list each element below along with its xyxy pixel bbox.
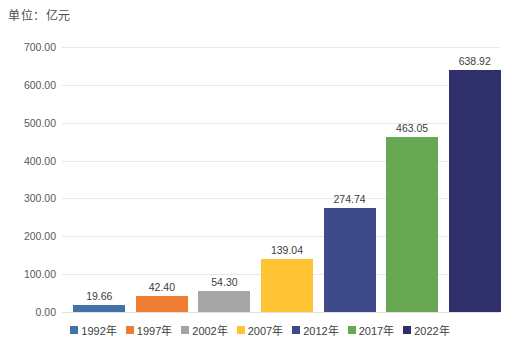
bar[interactable]: 54.30 <box>198 291 250 312</box>
chart-legend: 1992年1997年2002年2007年2012年2017年2022年 <box>0 322 520 338</box>
legend-item[interactable]: 1997年 <box>126 322 172 338</box>
bar[interactable]: 139.04 <box>261 259 313 312</box>
bar[interactable]: 274.74 <box>324 208 376 312</box>
legend-swatch-icon <box>237 326 245 334</box>
legend-swatch-icon <box>348 326 356 334</box>
y-axis-tick-label: 100.00 <box>24 268 56 280</box>
y-axis-tick-label: 300.00 <box>24 192 56 204</box>
chart-title: 单位：亿元 <box>8 6 71 23</box>
bars-layer: 19.6642.4054.30139.04274.74463.05638.92 <box>62 47 500 312</box>
legend-label: 2007年 <box>248 322 283 338</box>
legend-item[interactable]: 2012年 <box>292 322 338 338</box>
legend-swatch-icon <box>403 326 411 334</box>
legend-swatch-icon <box>181 326 189 334</box>
bar-value-label: 274.74 <box>334 193 366 205</box>
y-axis-tick-label: 0.00 <box>36 306 56 318</box>
legend-label: 1992年 <box>81 322 116 338</box>
legend-label: 2017年 <box>359 322 394 338</box>
y-axis-tick-label: 200.00 <box>24 230 56 242</box>
bar-value-label: 463.05 <box>396 122 428 134</box>
legend-label: 2022年 <box>414 322 449 338</box>
legend-item[interactable]: 2002年 <box>181 322 227 338</box>
y-axis: 0.00100.00200.00300.00400.00500.00600.00… <box>0 47 56 312</box>
legend-swatch-icon <box>126 326 134 334</box>
legend-item[interactable]: 1992年 <box>70 322 116 338</box>
legend-swatch-icon <box>70 326 78 334</box>
legend-label: 1997年 <box>137 322 172 338</box>
bar-value-label: 54.30 <box>211 276 237 288</box>
y-axis-tick-label: 400.00 <box>24 155 56 167</box>
y-axis-tick-label: 600.00 <box>24 79 56 91</box>
bar-value-label: 139.04 <box>271 244 303 256</box>
bar-value-label: 42.40 <box>149 281 175 293</box>
bar[interactable]: 42.40 <box>136 296 188 312</box>
gridline <box>62 312 500 313</box>
bar[interactable]: 463.05 <box>386 137 438 312</box>
legend-item[interactable]: 2007年 <box>237 322 283 338</box>
y-axis-tick-label: 700.00 <box>24 41 56 53</box>
legend-label: 2012年 <box>303 322 338 338</box>
bar-value-label: 638.92 <box>459 55 491 67</box>
legend-label: 2002年 <box>192 322 227 338</box>
bar-chart: 单位：亿元 0.00100.00200.00300.00400.00500.00… <box>0 0 520 345</box>
y-axis-tick-label: 500.00 <box>24 117 56 129</box>
bar[interactable]: 638.92 <box>449 70 501 312</box>
bar-value-label: 19.66 <box>86 290 112 302</box>
bar[interactable]: 19.66 <box>73 305 125 312</box>
plot-area: 19.6642.4054.30139.04274.74463.05638.92 <box>62 47 500 312</box>
legend-swatch-icon <box>292 326 300 334</box>
legend-item[interactable]: 2017年 <box>348 322 394 338</box>
legend-item[interactable]: 2022年 <box>403 322 449 338</box>
